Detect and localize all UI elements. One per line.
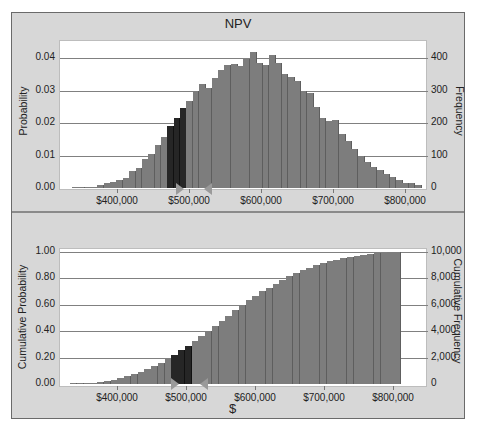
y-right-tick-label: 200 [431, 116, 448, 127]
left-range-slider-handle[interactable] [176, 183, 184, 195]
x-tick-mark [117, 386, 118, 390]
chart-title: NPV [12, 16, 464, 31]
x-tick-label: $700,000 [303, 392, 345, 403]
frequency-axis-title: Frequency [454, 86, 466, 136]
x-tick-mark [255, 386, 256, 390]
x-tick-mark [117, 189, 118, 193]
y-right-tick-label: 8,000 [431, 271, 456, 282]
y-right-tick-label: 4,000 [431, 324, 456, 335]
x-tick-mark [186, 386, 187, 390]
left-range-slider-handle[interactable] [171, 378, 179, 390]
y-right-tick-label: 10,000 [431, 245, 462, 256]
histogram-bar [415, 185, 422, 188]
right-range-slider-handle[interactable] [204, 183, 212, 195]
y-tick-label: 1.00 [15, 245, 55, 256]
probability-plot-area [59, 40, 427, 190]
y-tick-label: 0.20 [15, 351, 55, 362]
x-tick-mark [261, 189, 262, 193]
x-tick-label: $500,000 [165, 392, 207, 403]
y-tick-label: 0.80 [15, 271, 55, 282]
y-right-tick-label: 400 [431, 51, 448, 62]
x-tick-mark [189, 189, 190, 193]
x-tick-label: $600,000 [234, 392, 276, 403]
y-tick-label: 0.03 [15, 84, 55, 95]
y-tick-label: 0.04 [15, 51, 55, 62]
x-tick-mark [333, 189, 334, 193]
y-tick-label: 0.00 [15, 377, 55, 388]
probability-histogram-panel: NPV Probability Frequency 0.0000.011000.… [12, 13, 464, 213]
y-tick-label: 0.02 [15, 116, 55, 127]
y-right-tick-label: 300 [431, 84, 448, 95]
x-tick-mark [405, 189, 406, 193]
y-tick-label: 0.00 [15, 181, 55, 192]
x-tick-label: $700,000 [312, 195, 354, 206]
y-tick-label: 0.01 [15, 149, 55, 160]
x-tick-label: $400,000 [96, 392, 138, 403]
x-tick-label: $500,000 [168, 195, 210, 206]
x-axis-title: $ [229, 401, 236, 416]
x-tick-mark [393, 386, 394, 390]
x-tick-label: $400,000 [96, 195, 138, 206]
y-tick-label: 0.40 [15, 324, 55, 335]
cumulative-plot-area [59, 248, 427, 387]
x-tick-label: $600,000 [240, 195, 282, 206]
y-right-tick-label: 0 [431, 377, 437, 388]
x-tick-mark [324, 386, 325, 390]
x-tick-label: $800,000 [372, 392, 414, 403]
right-range-slider-handle[interactable] [200, 378, 208, 390]
y-right-tick-label: 0 [431, 181, 437, 192]
y-right-tick-label: 6,000 [431, 298, 456, 309]
x-tick-label: $800,000 [384, 195, 426, 206]
y-right-tick-label: 2,000 [431, 351, 456, 362]
cumulative-histogram-panel: Cumulative Probability Cumulative Freque… [12, 213, 464, 418]
y-tick-label: 0.60 [15, 298, 55, 309]
chart-window: NPV Probability Frequency 0.0000.011000.… [11, 12, 465, 419]
y-right-tick-label: 100 [431, 149, 448, 160]
histogram-bar [394, 252, 401, 384]
